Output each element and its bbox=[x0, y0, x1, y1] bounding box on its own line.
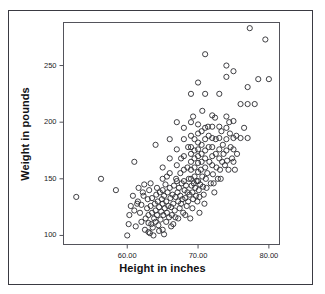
y-tick-label: 250 bbox=[23, 61, 57, 70]
plot-frame bbox=[64, 23, 280, 245]
x-tick-label: 60.00 bbox=[107, 251, 147, 260]
x-axis-title: Height in inches bbox=[0, 262, 325, 274]
x-tick-label: 80.00 bbox=[249, 251, 289, 260]
y-axis-title: Weight in pounds bbox=[19, 64, 31, 204]
y-tick-label: 150 bbox=[23, 174, 57, 183]
y-tick-label: 100 bbox=[23, 230, 57, 239]
scatter-plot-figure: Height in inches Weight in pounds 60.007… bbox=[0, 0, 325, 294]
x-axis-ticks bbox=[127, 245, 269, 249]
plot-area-border bbox=[64, 23, 280, 245]
x-tick-label: 70.00 bbox=[178, 251, 218, 260]
y-axis-ticks bbox=[60, 66, 64, 236]
y-tick-label: 200 bbox=[23, 117, 57, 126]
